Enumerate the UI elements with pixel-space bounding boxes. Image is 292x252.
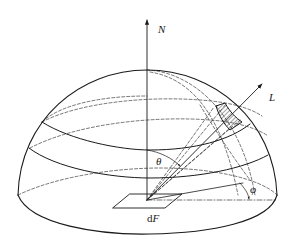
label-theta: θ bbox=[156, 156, 161, 167]
phi-arc bbox=[240, 183, 249, 199]
band2-front bbox=[29, 148, 268, 178]
direction-vector-l bbox=[147, 84, 262, 200]
meridian-2 bbox=[150, 72, 238, 195]
label-normal-n: N bbox=[158, 24, 165, 35]
label-phi: φ bbox=[250, 184, 256, 195]
meridian-1 bbox=[147, 70, 255, 195]
label-surface-element: dF bbox=[147, 213, 159, 224]
base-ellipse-back bbox=[18, 168, 277, 195]
hemisphere-drawing bbox=[0, 0, 292, 252]
hemisphere-diagram: N L θ φ dF bbox=[0, 0, 292, 252]
dome-inner-left bbox=[42, 96, 147, 122]
theta-arc bbox=[147, 150, 180, 166]
surface-element-df bbox=[113, 194, 182, 208]
dome-outline bbox=[18, 70, 277, 195]
label-direction-l: L bbox=[269, 92, 275, 103]
band1-front bbox=[42, 122, 250, 150]
